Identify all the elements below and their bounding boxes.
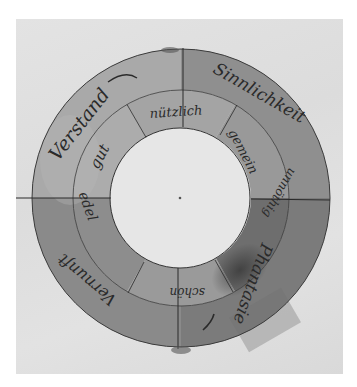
center-point xyxy=(179,197,182,200)
color-wheel: Verstand Sinnlichkeit Phantasie Vernunft… xyxy=(0,0,357,387)
paper-tab-bottom xyxy=(171,346,191,354)
paper-tab-top xyxy=(161,47,179,53)
label-schoen: schön xyxy=(169,285,205,299)
